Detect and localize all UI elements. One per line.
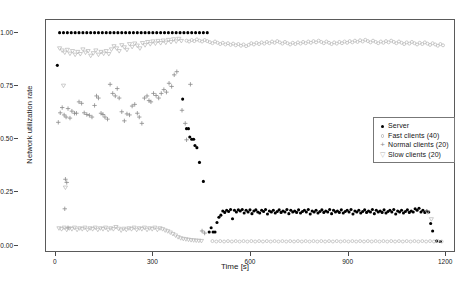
y-tick-mark [14, 245, 18, 246]
y-tick-label: 0.25 [0, 188, 13, 195]
x-tick-mark [250, 252, 251, 256]
x-tick-label: 900 [342, 258, 353, 265]
x-tick-label: 600 [245, 258, 256, 265]
y-tick-mark [14, 32, 18, 33]
x-tick-mark [55, 252, 56, 256]
y-tick-label: 0.50 [0, 135, 13, 142]
x-axis-title: Time [s] [0, 262, 470, 271]
triangle-down-icon: ▽ [377, 151, 388, 158]
legend-item-label: Slow clients (20) [388, 151, 441, 158]
x-tick-label: 300 [147, 258, 158, 265]
legend-item: +Normal clients (20) [377, 140, 449, 150]
x-tick-mark [445, 252, 446, 256]
x-tick-label: 0 [53, 258, 57, 265]
filled-circle-icon [377, 122, 388, 129]
y-tick-label: 1.00 [0, 28, 13, 35]
y-tick-mark [14, 191, 18, 192]
legend-item: Server [377, 121, 449, 131]
series-normal-clients-20 [56, 70, 207, 236]
x-tick-label: 1200 [438, 258, 452, 265]
x-tick-mark [348, 252, 349, 256]
legend-item-label: Fast clients (40) [388, 132, 440, 139]
chart-legend: ServerFast clients (40)+Normal clients (… [373, 117, 455, 163]
y-tick-mark [14, 85, 18, 86]
legend-item: Fast clients (40) [377, 131, 449, 141]
open-circle-icon [377, 132, 388, 139]
legend-item: ▽Slow clients (20) [377, 150, 449, 160]
x-tick-mark [152, 252, 153, 256]
legend-item-label: Server [388, 122, 409, 129]
y-tick-mark [14, 138, 18, 139]
chart-figure: Network utilization rate Time [s] Server… [0, 0, 470, 286]
plus-icon: + [377, 141, 388, 149]
y-axis-title: Network utilization rate [25, 50, 34, 200]
y-tick-label: 0.00 [0, 241, 13, 248]
y-tick-label: 0.75 [0, 81, 13, 88]
legend-item-label: Normal clients (20) [388, 141, 449, 148]
